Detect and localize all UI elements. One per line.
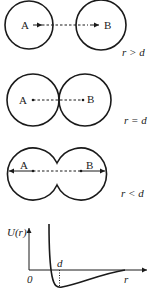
atom-a-label: A [21, 19, 29, 31]
atom-a-circle [5, 1, 53, 49]
origin-label: 0 [27, 273, 33, 285]
condition-label: r > d [122, 46, 145, 58]
panel-separated: A B r > d [5, 0, 145, 58]
d-marker-label: d [57, 257, 63, 269]
panel-overlapping: A B r < d [7, 148, 144, 200]
diagram-canvas: A B r > d A B r = d A B r < d U(r) 0 r d [0, 0, 152, 298]
atom-b-label: B [87, 93, 94, 105]
condition-label: r < d [121, 187, 144, 199]
atom-b-label: B [86, 159, 93, 171]
x-axis-label: r [124, 273, 129, 285]
atom-b-label: B [104, 19, 111, 31]
atom-a-label: A [19, 94, 27, 106]
atom-a-label: A [20, 159, 28, 171]
y-axis-label: U(r) [7, 226, 27, 239]
overlap-outline [7, 148, 106, 200]
condition-label: r = d [124, 114, 147, 126]
panel-touching: A B r = d [7, 74, 147, 126]
potential-graph: U(r) 0 r d [7, 224, 147, 287]
potential-curve [49, 224, 125, 287]
